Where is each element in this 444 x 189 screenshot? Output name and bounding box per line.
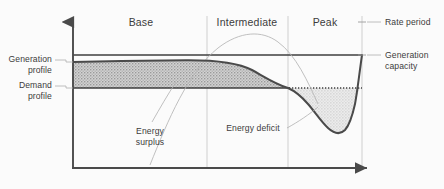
energy-surplus-label-line1: Energy [136, 126, 164, 136]
demand-profile-label-line1: Demand [19, 80, 52, 90]
diagram-canvas: Base Intermediate Peak Generation profil… [0, 0, 444, 189]
diagram-background [0, 0, 444, 189]
energy-rate-period-diagram: Base Intermediate Peak Generation profil… [0, 0, 444, 189]
zone-label-intermediate: Intermediate [217, 16, 278, 28]
generation-capacity-label-line2: capacity [385, 61, 418, 71]
zone-label-base: Base [129, 16, 154, 28]
generation-profile-label-line1: Generation [8, 54, 52, 64]
demand-profile-label-line2: profile [28, 91, 52, 101]
energy-deficit-label: Energy deficit [226, 123, 280, 133]
generation-profile-label-line2: profile [28, 65, 52, 75]
generation-capacity-label-line1: Generation [385, 50, 429, 60]
energy-surplus-label-line2: surplus [136, 137, 164, 147]
rate-period-label: Rate period [385, 17, 431, 27]
zone-label-peak: Peak [313, 16, 338, 28]
